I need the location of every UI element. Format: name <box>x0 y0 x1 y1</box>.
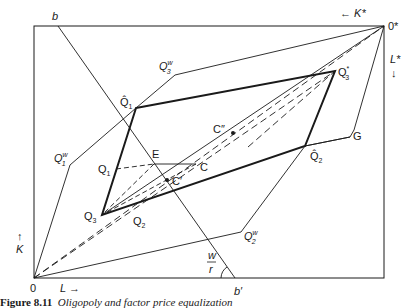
diagonal-solid <box>102 26 384 215</box>
label-q3: Q3 <box>84 210 97 224</box>
label-b-prime: b′ <box>234 285 243 297</box>
dashed-diagonal-1 <box>34 26 384 278</box>
label-origin-star: 0* <box>388 20 399 32</box>
lower-boundary-line <box>34 137 350 278</box>
l-star-arrow-icon: ↓ <box>391 67 397 79</box>
label-g: G <box>353 130 362 142</box>
angle-arc-icon <box>221 267 227 278</box>
label-q3w: Qw3 <box>159 59 174 75</box>
figure-caption: Figure 8.11 Oligopoly and factor price e… <box>0 296 233 308</box>
label-c-prime: C′ <box>172 175 182 187</box>
point-c-prime <box>165 178 169 182</box>
label-wage: w <box>208 249 217 261</box>
label-q2-hat: Q̂2 <box>310 149 323 164</box>
production-parallelogram <box>102 71 335 215</box>
label-rent: r <box>209 263 214 275</box>
point-c-double-prime <box>231 131 235 135</box>
label-q2w: Qw2 <box>244 229 259 245</box>
label-l-star-axis: L* <box>390 53 401 65</box>
g-to-origin-star <box>350 26 384 137</box>
dashed-diagonal-2 <box>34 71 335 278</box>
label-l-axis: L → <box>60 282 80 294</box>
label-k-axis: K <box>16 243 24 255</box>
dashed-q1-e <box>116 164 154 169</box>
label-q1-hat: Q̂1 <box>120 95 133 110</box>
caption-title: Oligopoly and factor price equalization <box>58 296 233 308</box>
label-q2: Q2 <box>133 215 146 229</box>
caption-number: Figure 8.11 <box>0 296 52 308</box>
label-e: E <box>152 148 159 160</box>
label-k-star-axis: ← K* <box>340 7 366 19</box>
k-arrow-icon: ↑ <box>17 230 23 242</box>
dashed-line-q3star <box>248 71 335 147</box>
label-q1w: Qw1 <box>54 151 69 167</box>
label-q1: Q1 <box>98 163 111 177</box>
label-b: b <box>52 10 58 22</box>
label-c-double-prime: C″ <box>213 123 225 135</box>
label-origin: 0 <box>30 282 36 294</box>
label-q3-star: Q*3 <box>338 65 350 81</box>
lower-boundary-to-g <box>305 137 350 146</box>
label-c: C <box>200 161 208 173</box>
